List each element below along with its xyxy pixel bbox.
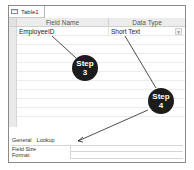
data-type-value: Short Text	[111, 28, 140, 35]
property-row-field-size[interactable]: Field Size	[11, 145, 183, 152]
property-row-format[interactable]: Format	[11, 152, 183, 159]
tab-lookup[interactable]: Lookup	[36, 137, 56, 143]
table-icon	[11, 9, 18, 14]
tab-label: Table1	[21, 9, 39, 15]
data-type-cell[interactable]: Short Text ▼	[109, 27, 185, 36]
callout-label: Step	[76, 59, 93, 68]
chevron-down-icon[interactable]: ▼	[175, 28, 182, 35]
property-label: Format	[11, 152, 71, 159]
field-properties-pane: General Lookup Field Size Format	[9, 133, 185, 163]
table-row[interactable]	[17, 72, 185, 81]
callout-label: Step	[152, 92, 169, 101]
column-header-field-name: Field Name	[17, 18, 109, 27]
tab-general[interactable]: General	[11, 137, 33, 143]
callout-number: 4	[159, 101, 163, 110]
step-4-callout: Step 4	[148, 88, 174, 114]
table-row[interactable]	[17, 36, 185, 45]
callout-number: 3	[83, 68, 87, 77]
field-properties-tabs: General Lookup	[11, 137, 56, 143]
field-name-cell[interactable]: EmployeeID	[17, 27, 109, 36]
table-row[interactable]	[17, 45, 185, 54]
row-selector-column[interactable]	[9, 27, 17, 127]
table-row[interactable]: EmployeeID Short Text ▼	[17, 27, 185, 36]
table-row[interactable]	[17, 63, 185, 72]
table-row[interactable]	[17, 54, 185, 63]
row-selector-header	[9, 18, 17, 27]
step-3-callout: Step 3	[72, 55, 98, 81]
table-design-window: Table1 Field Name Data Type EmployeeID S…	[8, 5, 186, 163]
column-header-data-type: Data Type	[109, 18, 185, 27]
tab-table1[interactable]: Table1	[9, 6, 45, 18]
